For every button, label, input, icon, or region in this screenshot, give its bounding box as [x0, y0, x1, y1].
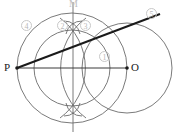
step-marker-5: 5: [146, 8, 157, 19]
step-marker-4: 4: [21, 20, 32, 31]
point-label-O: O: [131, 62, 139, 73]
point-marker-O: [125, 66, 129, 70]
step-marker-3: 3: [80, 20, 91, 31]
point-marker-P: [15, 66, 19, 70]
geometry-figure: P O M 1 2 3 4 5: [0, 0, 180, 134]
point-label-M: M: [69, 0, 78, 9]
point-label-P: P: [4, 62, 10, 73]
step-marker-2: 2: [57, 20, 68, 31]
step-marker-1: 1: [99, 51, 110, 62]
